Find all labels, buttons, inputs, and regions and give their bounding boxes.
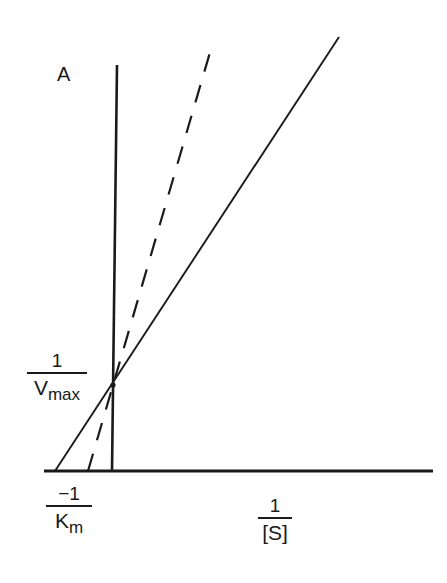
y-axis — [112, 65, 117, 471]
vmax-numerator: 1 — [52, 351, 63, 372]
solid-line-uninhibited — [55, 37, 339, 471]
vmax-symbol: V — [34, 376, 48, 399]
km-subscript: m — [69, 518, 83, 537]
x-axis-label-1-over-s: 1 [S] — [258, 496, 292, 543]
vmax-subscript: max — [48, 385, 80, 404]
intersection-point — [110, 382, 115, 387]
km-denominator: Km — [55, 507, 83, 536]
y-intercept-label-1-over-vmax: 1 Vmax — [27, 351, 87, 403]
vmax-denominator: Vmax — [34, 374, 80, 403]
km-numerator: −1 — [58, 484, 80, 505]
x-intercept-label-neg-1-over-km: −1 Km — [46, 484, 92, 536]
s-denominator: [S] — [262, 519, 288, 543]
km-symbol: K — [55, 509, 69, 532]
s-numerator: 1 — [270, 496, 281, 517]
panel-label: A — [57, 64, 70, 84]
